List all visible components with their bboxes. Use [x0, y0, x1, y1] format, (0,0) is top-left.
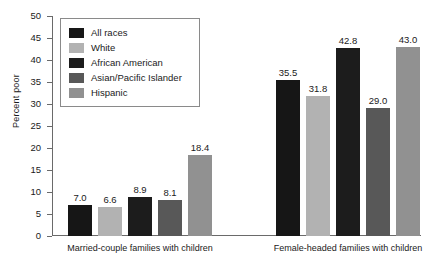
y-axis-tick-label: 30 — [30, 97, 41, 110]
legend-label: African American — [91, 57, 163, 68]
y-axis-tick-mark — [47, 82, 52, 83]
bar-value-label: 43.0 — [399, 34, 418, 45]
y-axis-tick-mark — [47, 104, 52, 105]
bar-value-label: 31.8 — [309, 83, 328, 94]
legend-swatch-icon — [69, 88, 84, 98]
y-axis-tick-mark — [47, 38, 52, 39]
legend-item: White — [69, 40, 192, 55]
y-axis-tick-mark — [47, 192, 52, 193]
y-axis-tick-mark — [47, 126, 52, 127]
bar: 42.8 — [336, 48, 360, 236]
legend-item: African American — [69, 55, 192, 70]
bar: 29.0 — [366, 108, 390, 236]
y-axis-tick-label: 5 — [36, 207, 41, 220]
y-axis-tick-mark — [47, 148, 52, 149]
y-axis-tick-label: 50 — [30, 9, 41, 22]
legend: All racesWhiteAfrican AmericanAsian/Paci… — [60, 18, 200, 107]
y-axis-tick-label: 35 — [30, 75, 41, 88]
x-axis-group-label: Married-couple families with children — [30, 243, 250, 253]
bar: 8.9 — [128, 197, 152, 236]
bar-value-label: 35.5 — [279, 67, 298, 78]
bar-chart: Percent poor 50454035302520151050 7.06.6… — [0, 0, 433, 269]
legend-swatch-icon — [69, 58, 84, 68]
legend-item: Asian/Pacific Islander — [69, 70, 192, 85]
legend-swatch-icon — [69, 28, 84, 38]
y-axis-line — [52, 16, 53, 236]
y-axis-tick-label: 40 — [30, 53, 41, 66]
y-axis-tick-mark — [47, 214, 52, 215]
y-axis-tick-label: 15 — [30, 163, 41, 176]
bar-value-label: 18.4 — [191, 142, 210, 153]
y-axis-tick-label: 25 — [30, 119, 41, 132]
y-axis-tick-mark — [47, 16, 52, 17]
legend-label: All races — [91, 27, 127, 38]
bar-value-label: 8.9 — [133, 184, 146, 195]
bar-value-label: 42.8 — [339, 35, 358, 46]
bar: 6.6 — [98, 207, 122, 236]
legend-item: Hispanic — [69, 85, 192, 100]
legend-swatch-icon — [69, 73, 84, 83]
bar-value-label: 8.1 — [163, 187, 176, 198]
bar: 43.0 — [396, 47, 420, 236]
bar: 31.8 — [306, 96, 330, 236]
y-axis-tick-mark — [47, 236, 52, 237]
legend-label: Hispanic — [91, 87, 127, 98]
y-axis-tick-mark — [47, 60, 52, 61]
bar-value-label: 29.0 — [369, 95, 388, 106]
bar-value-label: 6.6 — [103, 194, 116, 205]
legend-swatch-icon — [69, 43, 84, 53]
bar: 18.4 — [188, 155, 212, 236]
y-axis-tick-mark — [47, 170, 52, 171]
bar-value-label: 7.0 — [73, 192, 86, 203]
legend-label: Asian/Pacific Islander — [91, 72, 182, 83]
y-axis-tick-label: 0 — [36, 229, 41, 242]
bar: 35.5 — [276, 80, 300, 236]
y-axis-tick-label: 20 — [30, 141, 41, 154]
legend-item: All races — [69, 25, 192, 40]
y-axis-tick-label: 45 — [30, 31, 41, 44]
bar: 7.0 — [68, 205, 92, 236]
y-axis-tick-label: 10 — [30, 185, 41, 198]
legend-label: White — [91, 42, 115, 53]
y-axis-title: Percent poor — [11, 41, 21, 161]
x-axis-group-label: Female-headed families with children — [238, 243, 433, 253]
bar: 8.1 — [158, 200, 182, 236]
